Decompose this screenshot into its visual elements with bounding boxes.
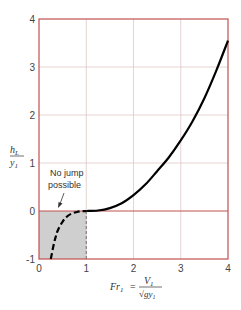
x-tick-label: 1: [83, 263, 89, 274]
no-jump-region: [39, 211, 86, 259]
hydraulic-jump-chart: 01234 -101234 No jump possible hL y1 Fr1…: [0, 0, 241, 310]
svg-text:y1: y1: [9, 157, 18, 170]
y-tick-label: 1: [29, 158, 35, 169]
y-tick-labels: -101234: [26, 14, 35, 265]
svg-text:Fr1: Fr1: [109, 281, 124, 294]
y-tick-label: -1: [26, 254, 35, 265]
x-axis-label: Fr1 = V1 √gy1: [109, 275, 162, 300]
svg-text:hL: hL: [10, 144, 19, 157]
svg-text:V1: V1: [144, 275, 154, 288]
x-tick-label: 2: [131, 263, 137, 274]
head-loss-curve: [86, 41, 228, 211]
x-tick-label: 4: [225, 263, 231, 274]
shaded-area: [39, 211, 86, 259]
annotation-arrow-icon: [58, 193, 64, 208]
y-axis-label: hL y1: [9, 144, 24, 170]
svg-text:√gy1: √gy1: [139, 289, 155, 300]
x-tick-label: 3: [178, 263, 184, 274]
x-tick-label: 0: [36, 263, 42, 274]
y-tick-label: 0: [29, 206, 35, 217]
y-tick-label: 3: [29, 62, 35, 73]
svg-text:=: =: [130, 281, 136, 292]
x-tick-labels: 01234: [36, 263, 231, 274]
y-tick-label: 2: [29, 110, 35, 121]
annotation-line1: No jump: [50, 168, 84, 178]
annotation-line2: possible: [48, 180, 81, 190]
y-tick-label: 4: [29, 14, 35, 25]
